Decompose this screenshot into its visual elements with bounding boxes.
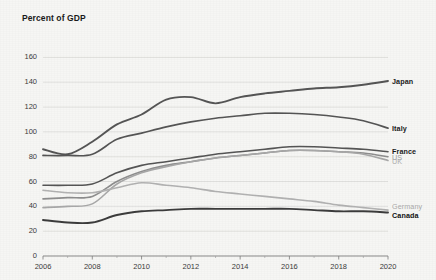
y-axis-tick-label: 140 — [15, 77, 37, 86]
y-axis-tick-label: 160 — [15, 52, 37, 61]
y-axis-tick-label: 0 — [15, 251, 37, 260]
series-line-canada — [43, 209, 388, 223]
series-label-italy: Italy — [392, 124, 407, 133]
x-axis-tick-label: 2016 — [272, 262, 306, 271]
series-line-germany — [43, 183, 388, 210]
x-axis-tick-label: 2010 — [125, 262, 159, 271]
series-line-italy — [43, 113, 388, 156]
y-axis-tick-label: 60 — [15, 177, 37, 186]
series-label-canada: Canada — [392, 211, 419, 220]
y-axis-tick-label: 40 — [15, 201, 37, 210]
plot-area — [43, 45, 388, 256]
x-axis-tick-label: 2006 — [26, 262, 60, 271]
series-label-uk: UK — [392, 157, 402, 166]
chart-title: Percent of GDP — [22, 13, 86, 23]
plot-svg — [43, 45, 388, 256]
y-axis-tick-label: 120 — [15, 102, 37, 111]
y-axis-tick-label: 20 — [15, 226, 37, 235]
y-axis-tick-label: 80 — [15, 152, 37, 161]
x-axis-tick-label: 2018 — [322, 262, 356, 271]
series-label-japan: Japan — [392, 77, 413, 86]
x-axis-tick-label: 2020 — [371, 262, 405, 271]
x-axis-tick-label: 2014 — [223, 262, 257, 271]
x-axis-tick-label: 2008 — [75, 262, 109, 271]
series-line-uk — [43, 150, 388, 207]
x-axis-tick-label: 2012 — [174, 262, 208, 271]
y-axis-tick-label: 100 — [15, 127, 37, 136]
chart-container: Percent of GDP 0204060801001201401602006… — [0, 0, 436, 280]
